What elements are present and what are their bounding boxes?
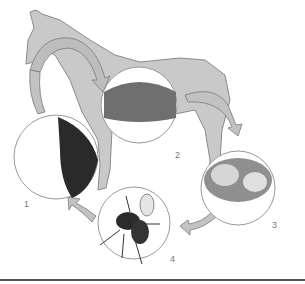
stage-2-label: 2 — [175, 150, 180, 160]
arrow-to-stage-4 — [180, 212, 218, 235]
stage-1-label: 1 — [24, 199, 29, 209]
arrow-to-stage-1-from-head — [30, 70, 45, 114]
arrow-to-stage-1 — [68, 197, 96, 222]
stage-4-circle — [98, 187, 170, 264]
life-cycle-diagram — [0, 0, 305, 284]
stage-3-label: 3 — [272, 220, 277, 230]
stage-1-circle — [14, 115, 98, 199]
stage-4-label: 4 — [170, 254, 175, 264]
stage-2-circle — [101, 67, 177, 143]
bottom-rule — [0, 279, 305, 281]
stage-3-circle — [201, 151, 275, 225]
